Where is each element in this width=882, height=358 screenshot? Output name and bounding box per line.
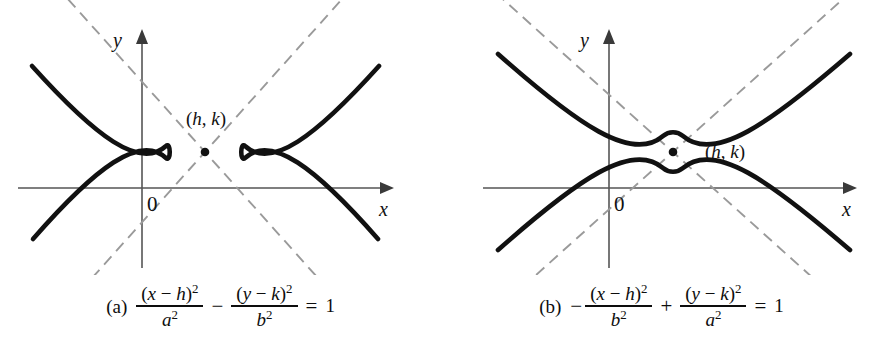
panel-a-caption: (a) (x − h)2 a2 − (y − k)2 b2 = 1 bbox=[0, 282, 441, 330]
panel-a-right-branch bbox=[241, 66, 379, 239]
panel-b-term1-denominator: b2 bbox=[606, 307, 632, 330]
panel-b-term1-fraction: (x − h)2 b2 bbox=[585, 282, 652, 330]
panel-a-term1-fraction: (x − h)2 a2 bbox=[136, 282, 203, 330]
panel-a-term1-denominator: a2 bbox=[157, 307, 183, 330]
panel-b-term2-numerator: (y − k)2 bbox=[680, 282, 746, 305]
panel-b-caption: (b) − (x − h)2 b2 + (y − k)2 a2 = 1 bbox=[441, 282, 882, 330]
panel-b-upper-branch bbox=[498, 54, 850, 145]
panel-a-asymptotes bbox=[32, 0, 378, 275]
panel-a-term2-fraction: (y − k)2 b2 bbox=[231, 282, 297, 330]
panel-b-center-point bbox=[669, 148, 678, 157]
panel-b-operator: + bbox=[659, 294, 673, 319]
panel-b-equation: − (x − h)2 b2 + (y − k)2 a2 = 1 bbox=[570, 282, 784, 330]
panel-a-center-point bbox=[201, 148, 210, 157]
panel-a-tag: (a) bbox=[106, 294, 127, 318]
panel-b-term2-fraction: (y − k)2 a2 bbox=[680, 282, 746, 330]
panel-a-center-label: (h, k) bbox=[186, 108, 226, 130]
panel-b-leading-minus: − bbox=[570, 294, 582, 319]
panel-a-operator: − bbox=[210, 294, 224, 319]
panel-b-x-axis-label: x bbox=[841, 198, 851, 220]
panel-b-term2-denominator: a2 bbox=[700, 307, 726, 330]
panel-a-origin-label: 0 bbox=[147, 192, 158, 216]
panel-a-right-hand-side: 1 bbox=[325, 295, 335, 317]
panel-b-right-hand-side: 1 bbox=[774, 295, 784, 317]
panel-a-equation: (x − h)2 a2 − (y − k)2 b2 = 1 bbox=[136, 282, 335, 330]
panel-b-y-axis-label: y bbox=[578, 29, 589, 52]
panel-a-term2-denominator: b2 bbox=[251, 307, 277, 330]
panel-b-x-axis bbox=[483, 182, 857, 194]
panel-b-equals-sign: = bbox=[753, 294, 767, 319]
panel-a-horizontal-hyperbola: y x 0 (h, k) (a) (x − h)2 a2 − (y − k)2 … bbox=[0, 0, 441, 358]
panel-b-asymptotes bbox=[496, 0, 853, 275]
panel-a-y-axis-label: y bbox=[111, 29, 122, 52]
panel-b-center-label: (h, k) bbox=[705, 141, 745, 163]
panel-a-term1-numerator: (x − h)2 bbox=[136, 282, 203, 305]
panel-b-term1-numerator: (x − h)2 bbox=[585, 282, 652, 305]
panel-a-term2-numerator: (y − k)2 bbox=[231, 282, 297, 305]
panel-b-lower-branch bbox=[498, 159, 850, 250]
panel-a-x-axis-label: x bbox=[378, 198, 388, 220]
hyperbola-figure: y x 0 (h, k) (a) (x − h)2 a2 − (y − k)2 … bbox=[0, 0, 882, 358]
panel-b-origin-label: 0 bbox=[614, 192, 625, 216]
panel-b-vertical-hyperbola: y x 0 (h, k) (b) − (x − h)2 b2 + (y − k)… bbox=[441, 0, 882, 358]
panel-b-plot: y x 0 (h, k) bbox=[441, 0, 882, 275]
panel-a-plot: y x 0 (h, k) bbox=[0, 0, 441, 275]
panel-b-y-axis bbox=[603, 29, 615, 268]
panel-a-equals-sign: = bbox=[305, 294, 319, 319]
panel-b-tag: (b) bbox=[539, 294, 561, 318]
